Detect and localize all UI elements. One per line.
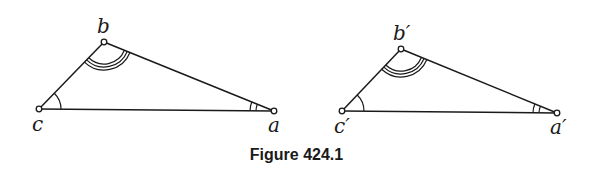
edge-c-prime-a-prime	[342, 111, 557, 113]
angle-a-prime-arc-1	[533, 104, 535, 113]
angle-c-arc	[54, 93, 61, 109]
edge-cb	[39, 42, 104, 109]
label-a-prime: a′	[550, 115, 567, 139]
triangle-a-prime-b-prime-c-prime: b′ c′ a′	[334, 21, 567, 139]
label-c-prime: c′	[334, 114, 350, 138]
vertex-b-prime	[398, 46, 404, 52]
vertex-b	[101, 39, 107, 45]
label-a: a	[268, 113, 280, 137]
vertex-c-prime	[339, 108, 345, 114]
angle-a-arc-2	[256, 104, 257, 111]
vertex-c	[36, 106, 42, 112]
label-b-prime: b′	[393, 21, 411, 45]
triangle-abc: b c a	[32, 14, 280, 137]
angle-a-prime-arc-2	[539, 106, 540, 113]
angle-a-arc-1	[250, 102, 252, 111]
angle-c-prime-arc	[357, 95, 364, 111]
figure-caption: Figure 424.1	[0, 146, 593, 164]
edge-ca	[39, 109, 274, 111]
edge-b-prime-a-prime	[401, 49, 557, 113]
label-c: c	[32, 112, 43, 136]
edge-c-prime-b-prime	[342, 49, 401, 111]
label-b: b	[97, 14, 110, 38]
